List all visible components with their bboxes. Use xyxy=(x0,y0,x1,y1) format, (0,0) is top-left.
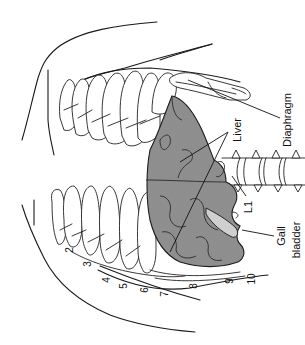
ribcage-left xyxy=(59,71,250,146)
liver-label: Liver xyxy=(232,118,243,142)
rib-number-10: 10 xyxy=(246,273,257,284)
bladder-label: bladder xyxy=(291,222,302,259)
spine xyxy=(222,150,305,192)
rib-number-8: 8 xyxy=(188,283,199,289)
liver-shape xyxy=(146,96,244,267)
rib-number-7: 7 xyxy=(159,291,170,297)
gall-label: Gall xyxy=(276,226,287,246)
liver-anatomy-diagram: Diaphragm Liver L1 Gall bladder 2 3 4 5 … xyxy=(0,0,305,345)
rib-number-9: 9 xyxy=(224,278,235,284)
rib-number-3: 3 xyxy=(82,261,93,267)
rib-number-5: 5 xyxy=(118,283,129,289)
diagram-artwork xyxy=(0,0,305,345)
l1-label: L1 xyxy=(243,201,254,213)
body-outline xyxy=(22,22,268,332)
rib-number-4: 4 xyxy=(101,277,112,283)
rib-number-2: 2 xyxy=(64,247,75,253)
diaphragm-label: Diaphragm xyxy=(282,93,293,147)
rib-number-6: 6 xyxy=(139,287,150,293)
